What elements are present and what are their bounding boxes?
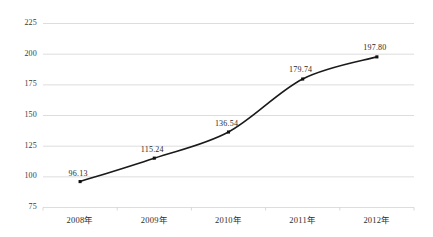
data-point-marker (301, 77, 304, 80)
data-value-label: 96.13 (58, 169, 98, 178)
line-chart: 75100125150175200225 2008年2009年2010年2011… (0, 0, 433, 237)
x-axis-tick-label: 2009年 (117, 213, 191, 225)
data-value-label: 136.54 (207, 119, 247, 128)
data-point-marker (79, 180, 82, 183)
x-axis-tick-label: 2008年 (43, 213, 117, 225)
data-point-marker (153, 157, 156, 160)
data-value-label: 115.24 (132, 145, 172, 154)
y-axis-tick-label: 175 (9, 79, 37, 88)
y-axis-tick-label: 150 (9, 110, 37, 119)
x-axis-tick-label: 2012年 (340, 213, 414, 225)
data-value-label: 197.80 (355, 43, 395, 52)
y-axis-tick-label: 125 (9, 141, 37, 150)
y-axis-tick-label: 200 (9, 49, 37, 58)
y-axis-tick-label: 75 (9, 202, 37, 211)
y-axis-tick-label: 100 (9, 171, 37, 180)
x-axis-tick-label: 2010年 (191, 213, 265, 225)
data-point-marker (227, 130, 230, 133)
y-axis-tick-label: 225 (9, 18, 37, 27)
x-axis-tick-label: 2011年 (266, 213, 340, 225)
data-value-label: 179.74 (281, 65, 321, 74)
data-point-marker (375, 55, 378, 58)
